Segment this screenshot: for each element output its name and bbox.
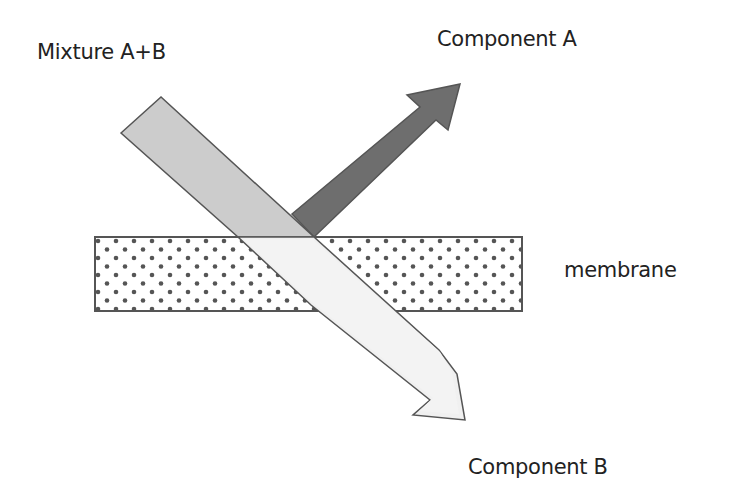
component-a-arrow bbox=[292, 84, 460, 237]
membrane-separation-diagram bbox=[0, 0, 732, 483]
membrane-label: membrane bbox=[564, 258, 677, 282]
component-b-label: Component B bbox=[468, 455, 608, 479]
mixture-label: Mixture A+B bbox=[37, 40, 166, 64]
mixture-bar bbox=[121, 97, 314, 237]
component-a-label: Component A bbox=[437, 27, 577, 51]
